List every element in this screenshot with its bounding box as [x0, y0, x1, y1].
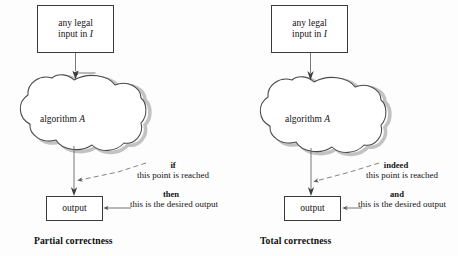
annotation-lower-text: this is the desired output — [358, 199, 458, 209]
input-box-line1: any legal — [292, 18, 327, 29]
annotation-lower: and this is the desired output — [358, 189, 458, 209]
cloud-label-prefix: algorithm — [285, 114, 324, 124]
cloud-label-italic: A — [324, 114, 330, 124]
input-box: any legal input in I — [271, 5, 348, 53]
annotation-upper-text: this point is reached — [352, 170, 452, 180]
annotation-lower-keyword: and — [336, 189, 458, 199]
panel-total-correctness: any legal input in I algorithm A output … — [0, 0, 458, 256]
input-box-text: any legal input in I — [292, 18, 327, 40]
annotation-upper-keyword: indeed — [340, 160, 452, 170]
input-box-line2-prefix: input in — [292, 29, 324, 39]
output-box: output — [284, 196, 341, 221]
panel-caption: Total correctness — [260, 235, 331, 246]
figure-root: any legal input in I algorithm A output … — [0, 0, 458, 256]
input-box-line2: input in I — [292, 29, 327, 40]
output-box-label: output — [300, 203, 324, 214]
annotation-upper: indeed this point is reached — [352, 160, 452, 180]
cloud-label: algorithm A — [285, 114, 330, 124]
input-box-line2-italic: I — [324, 29, 327, 39]
